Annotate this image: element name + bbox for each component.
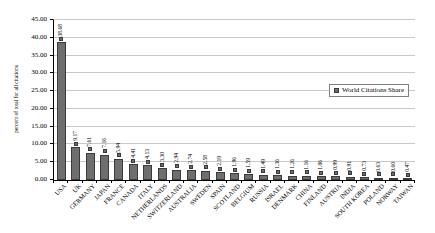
bar-value-label: 1.26 (290, 159, 296, 169)
bar (317, 176, 326, 180)
data-label-key-icon (103, 149, 107, 153)
x-tick-mark (111, 180, 112, 183)
data-label-key-icon (175, 164, 179, 168)
bar-value-label-group: 2.19 (216, 156, 224, 171)
x-tick-mark (125, 180, 126, 183)
bar (187, 170, 196, 180)
gridline (54, 108, 415, 109)
y-tick-mark (50, 55, 53, 56)
bar (273, 175, 282, 180)
x-tick-mark (270, 180, 271, 183)
bar-value-label-group: 7.61 (86, 137, 94, 152)
y-tick-mark (50, 19, 53, 20)
bar-value-label-group: 1.06 (317, 160, 325, 175)
x-tick-mark (327, 180, 328, 183)
bar (346, 177, 355, 180)
x-tick-mark (284, 180, 285, 183)
bar-value-label-group: 0.60 (389, 162, 397, 177)
data-label-key-icon (348, 171, 352, 175)
bar-value-label: 2.58 (203, 155, 209, 165)
data-label-key-icon (117, 153, 121, 157)
plot-area: 38.689.177.617.165.944.414.133.302.942.7… (53, 19, 415, 181)
bar (230, 173, 239, 180)
bar (114, 159, 123, 180)
y-tick-label: 30.00 (7, 69, 47, 76)
y-tick-label: 40.00 (7, 34, 47, 41)
bar-value-label-group: 3.30 (158, 152, 166, 167)
bar-value-label-group: 0.47 (404, 162, 412, 177)
bar-value-label: 1.96 (232, 157, 238, 167)
bar-value-label-group: 9.17 (72, 131, 80, 146)
x-tick-mark (82, 180, 83, 183)
data-label-key-icon (146, 160, 150, 164)
bar (403, 178, 412, 180)
bar (374, 178, 383, 180)
bar-value-label: 5.94 (116, 143, 122, 153)
y-tick-mark (50, 72, 53, 73)
y-tick-mark (50, 143, 53, 144)
bar (129, 164, 138, 180)
bar-value-label: 0.73 (362, 161, 368, 171)
x-tick-mark (241, 180, 242, 183)
data-label-key-icon (74, 142, 78, 146)
bar-value-label-group: 0.91 (346, 161, 354, 176)
bar-value-label-group: 4.13 (144, 149, 152, 164)
y-tick-label: 20.00 (7, 105, 47, 112)
bar-value-label: 4.41 (131, 148, 137, 158)
data-label-key-icon (59, 37, 63, 41)
data-label-key-icon (160, 163, 164, 167)
x-tick-mark (385, 180, 386, 183)
legend-label: World Citations Share (342, 87, 404, 94)
bar (143, 165, 152, 180)
x-tick-mark (400, 180, 401, 183)
x-tick-mark (298, 180, 299, 183)
bar (57, 42, 66, 180)
citations-share-bar-chart: percent of total for all citations 38.68… (0, 0, 435, 233)
bar-value-label: 0.63 (376, 162, 382, 172)
data-label-key-icon (204, 165, 208, 169)
bar-value-label: 0.60 (391, 162, 397, 172)
data-label-key-icon (189, 165, 193, 169)
x-tick-mark (414, 180, 415, 183)
bar (216, 172, 225, 180)
x-tick-mark (67, 180, 68, 183)
legend: World Citations Share (329, 84, 409, 97)
bar-value-label-group: 2.94 (173, 153, 181, 168)
x-tick-mark (197, 180, 198, 183)
y-tick-mark (50, 37, 53, 38)
data-label-key-icon (276, 170, 280, 174)
category-label: USA (54, 183, 68, 197)
y-tick-mark (50, 161, 53, 162)
bar (331, 176, 340, 180)
bar-value-label-group: 2.58 (202, 155, 210, 170)
gridline (54, 37, 415, 38)
y-tick-label: 45.00 (7, 16, 47, 23)
bar-value-label: 1.06 (318, 160, 324, 170)
x-tick-mark (53, 180, 54, 183)
x-tick-mark (255, 180, 256, 183)
bar-value-label-group: 38.68 (57, 24, 65, 41)
bar (158, 168, 167, 180)
bar (86, 153, 95, 180)
data-label-key-icon (362, 172, 366, 176)
gridline (54, 72, 415, 73)
gridline (54, 126, 415, 127)
y-tick-mark (50, 108, 53, 109)
data-label-key-icon (233, 168, 237, 172)
bar-value-label-group: 1.59 (245, 158, 253, 173)
x-tick-mark (226, 180, 227, 183)
bar-value-label: 1.49 (261, 159, 267, 169)
bar-value-label-group: 7.16 (101, 138, 109, 153)
data-label-key-icon (377, 172, 381, 176)
bar-value-label: 0.91 (347, 161, 353, 171)
bar-value-label-group: 0.99 (332, 160, 340, 175)
bar (288, 176, 297, 180)
x-tick-mark (342, 180, 343, 183)
bar-value-label: 2.94 (174, 153, 180, 163)
bar (172, 170, 181, 180)
bar-value-label-group: 2.74 (187, 154, 195, 169)
y-tick-mark (50, 126, 53, 127)
y-tick-label: 35.00 (7, 52, 47, 59)
bar (244, 174, 253, 180)
bar-value-label-group: 0.73 (360, 161, 368, 176)
